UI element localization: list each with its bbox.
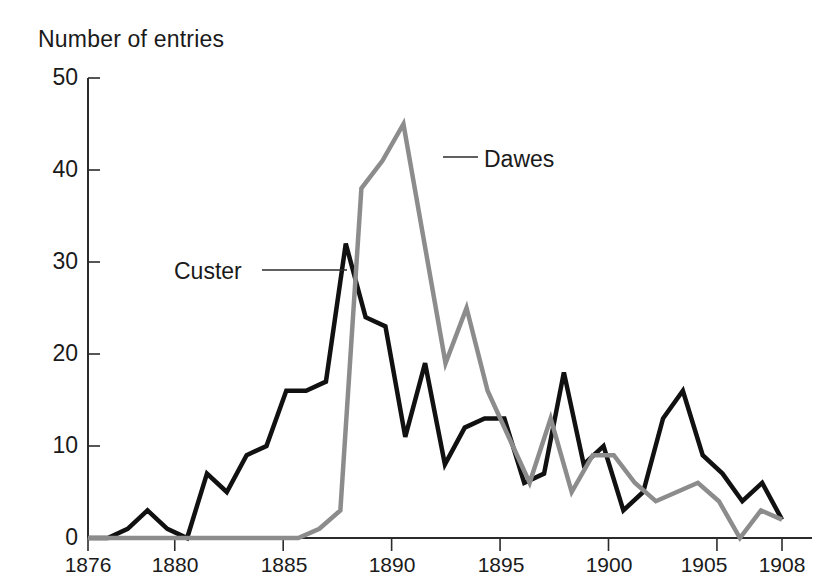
y-tick-label-40: 40 [26,156,78,183]
y-tick-label-20: 20 [26,340,78,367]
y-tick-label-50: 50 [26,64,78,91]
x-tick-label-1880: 1880 [135,553,215,577]
axis-lines [88,78,812,538]
x-tick-label-1908: 1908 [742,553,822,577]
x-tick-label-1900: 1900 [569,553,649,577]
y-axis-ticks [88,78,100,538]
y-tick-label-30: 30 [26,248,78,275]
series-line-dawes [88,124,782,538]
y-tick-label-0: 0 [26,524,78,551]
x-tick-label-1905: 1905 [664,553,744,577]
x-tick-label-1895: 1895 [461,553,541,577]
chart-container: Number of entries 50 40 30 20 10 0 1876 … [0,0,828,582]
series-label-dawes: Dawes [484,146,554,173]
plot-area [0,0,828,582]
data-series-group [88,124,782,538]
x-tick-label-1885: 1885 [244,553,324,577]
y-tick-label-10: 10 [26,432,78,459]
x-tick-label-1890: 1890 [352,553,432,577]
y-axis-title: Number of entries [38,26,224,53]
x-tick-label-1876: 1876 [48,553,128,577]
series-label-custer: Custer [174,258,242,285]
